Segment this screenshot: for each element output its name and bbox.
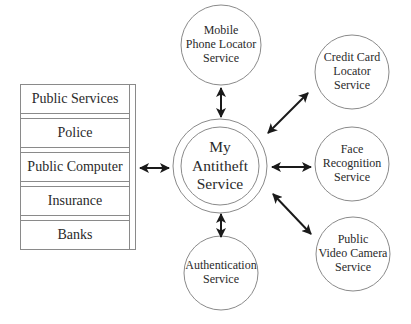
client-item-police: Police [20,118,130,148]
node-public-video-camera-service: Public Video Camera Service [315,217,391,291]
node-label-line: Face [341,143,364,157]
node-label-line: Antitheft [192,157,248,176]
node-authentication-service: Authentication Service [183,236,259,310]
node-label-line: Authentication [185,259,256,273]
bidirectional-arrow-icon [273,194,311,234]
node-label-line: Service [203,52,239,66]
client-item-public-services: Public Services [20,84,130,114]
node-label-line: Service [334,171,370,185]
node-label-line: Phone Locator [186,38,256,52]
client-item-label: Police [58,125,93,141]
node-label-line: Recognition [323,157,382,171]
bidirectional-arrow-icon [268,93,308,133]
node-label-line: My [209,138,231,157]
node-label-line: Service [197,175,243,194]
client-item-label: Insurance [48,193,102,209]
node-label-line: Credit Card [324,51,380,65]
node-credit-card-locator-service: Credit Card Locator Service [314,35,390,109]
node-label-line: Public [338,233,369,247]
node-label-line: Service [334,79,370,93]
client-item-insurance: Insurance [20,186,130,216]
node-label-line: Locator [333,65,370,79]
node-label-line: Service [203,273,239,287]
node-mobile-phone-locator-service: Mobile Phone Locator Service [181,5,261,85]
client-item-banks: Banks [20,220,130,250]
node-face-recognition-service: Face Recognition Service [314,127,390,201]
node-label-line: Mobile [204,24,239,38]
node-my-antitheft-service: My Antitheft Service [180,128,260,204]
client-item-label: Public Computer [27,159,122,175]
node-label-line: Service [335,261,371,275]
client-item-label: Public Services [32,91,119,107]
client-item-public-computer: Public Computer [20,152,130,182]
node-label-line: Video Camera [319,247,388,261]
client-item-label: Banks [58,227,93,243]
